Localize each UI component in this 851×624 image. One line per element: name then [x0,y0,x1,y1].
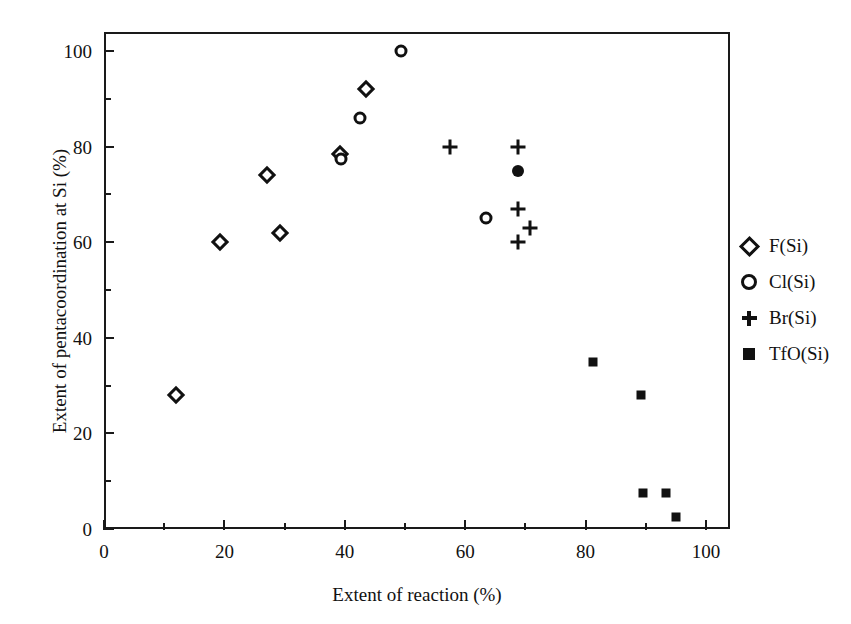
y-tick-minor [104,385,111,387]
legend-item-clsi[interactable]: Cl(Si) [738,264,851,300]
x-tick-label: 0 [99,542,109,561]
legend-marker-diamond-open-icon [738,235,760,257]
x-axis-title: Extent of reaction (%) [104,584,730,606]
plot-area [104,32,730,529]
y-tick-major [104,241,114,243]
legend-item-label: Br(Si) [760,307,817,329]
y-tick-major [104,146,114,148]
x-tick-minor [524,523,526,530]
x-tick-major [585,520,587,530]
x-tick-minor [645,523,647,530]
legend-glyph [742,311,757,326]
y-tick-major [104,337,114,339]
x-tick-major [344,520,346,530]
y-tick-minor [104,480,111,482]
legend-item-brsi[interactable]: Br(Si) [738,300,851,336]
x-tick-minor [163,523,165,530]
y-tick-major [104,432,114,434]
y-tick-minor [104,193,111,195]
legend: F(Si)Cl(Si)Br(Si)TfO(Si) [738,228,851,372]
y-tick-label: 20 [73,424,92,443]
legend-marker-circle-open-icon [738,271,760,293]
y-axis-title: Extent of pentacoordination at Si (%) [49,81,71,501]
x-tick-minor [404,523,406,530]
y-tick-label: 40 [73,328,92,347]
x-tick-label: 100 [692,542,721,561]
x-tick-label: 40 [335,542,354,561]
legend-marker-square-filled-icon [738,343,760,365]
legend-item-fsi[interactable]: F(Si) [738,228,851,264]
scatter-plot-figure: 020406080100 020406080100 Extent of reac… [0,0,851,624]
y-tick-minor [104,289,111,291]
legend-item-label: TfO(Si) [760,343,829,365]
legend-marker-plus-icon [738,307,760,329]
x-tick-major [464,520,466,530]
y-tick-label: 0 [83,520,93,539]
x-tick-label: 20 [215,542,234,561]
x-tick-minor [284,523,286,530]
y-tick-major [104,528,114,530]
x-tick-label: 60 [456,542,475,561]
x-tick-major [705,520,707,530]
legend-item-label: Cl(Si) [760,271,815,293]
legend-item-label: F(Si) [760,235,808,257]
legend-glyph [743,348,755,360]
legend-item-tfosi[interactable]: TfO(Si) [738,336,851,372]
y-tick-label: 80 [73,137,92,156]
y-tick-minor [104,98,111,100]
legend-glyph [741,274,757,290]
x-tick-major [223,520,225,530]
y-tick-major [104,50,114,52]
y-tick-label: 100 [64,42,93,61]
x-tick-label: 80 [576,542,595,561]
y-tick-label: 60 [73,233,92,252]
legend-glyph [738,235,759,256]
